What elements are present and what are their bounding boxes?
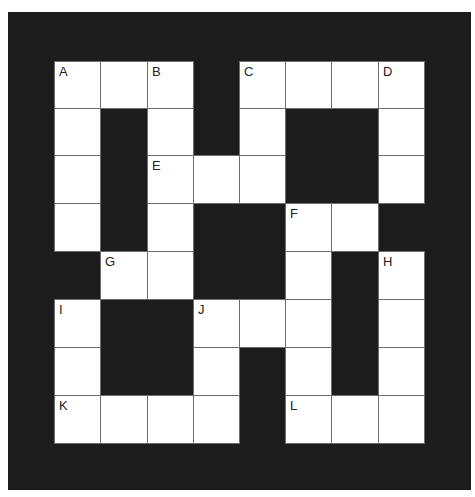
crossword-cell[interactable] <box>147 203 194 252</box>
crossword-cell[interactable] <box>193 347 240 396</box>
crossword-cell[interactable] <box>285 299 332 348</box>
crossword-board: ABCDEFGHIJKL <box>8 12 471 490</box>
clue-number-label: I <box>59 303 63 316</box>
crossword-cell[interactable] <box>193 155 240 204</box>
crossword-cell-j[interactable]: J <box>193 299 240 348</box>
crossword-cell-k[interactable]: K <box>54 395 101 444</box>
crossword-cell[interactable] <box>331 61 379 109</box>
clue-number-label: K <box>59 399 68 412</box>
crossword-cell-i[interactable]: I <box>54 299 101 348</box>
crossword-cell-e[interactable]: E <box>147 155 194 204</box>
crossword-cell-d[interactable]: D <box>378 61 425 109</box>
crossword-cell[interactable] <box>239 155 286 204</box>
crossword-cell[interactable] <box>378 347 425 396</box>
crossword-cell[interactable] <box>378 155 425 204</box>
clue-number-label: G <box>105 255 115 268</box>
clue-number-label: H <box>383 255 392 268</box>
crossword-cell[interactable] <box>378 108 425 156</box>
crossword-cell[interactable] <box>147 108 194 156</box>
clue-number-label: J <box>198 303 205 316</box>
crossword-cell[interactable] <box>239 299 286 348</box>
crossword-cell-h[interactable]: H <box>378 251 425 300</box>
crossword-cell-b[interactable]: B <box>147 61 194 109</box>
crossword-cell[interactable] <box>193 395 240 444</box>
clue-number-label: D <box>383 65 392 78</box>
crossword-cell[interactable] <box>54 203 101 252</box>
crossword-cell-c[interactable]: C <box>239 61 286 109</box>
crossword-cell[interactable] <box>54 347 101 396</box>
crossword-cell[interactable] <box>331 395 379 444</box>
clue-number-label: E <box>152 159 161 172</box>
clue-number-label: F <box>290 207 298 220</box>
crossword-cell[interactable] <box>147 251 194 300</box>
crossword-cell-g[interactable]: G <box>100 251 148 300</box>
crossword-cell[interactable] <box>100 61 148 109</box>
crossword-cell[interactable] <box>285 347 332 396</box>
crossword-cell[interactable] <box>378 395 425 444</box>
clue-number-label: A <box>59 65 68 78</box>
crossword-cell[interactable] <box>378 299 425 348</box>
crossword-cell[interactable] <box>100 395 148 444</box>
clue-number-label: L <box>290 399 297 412</box>
crossword-cell-f[interactable]: F <box>285 203 332 252</box>
crossword-cell-l[interactable]: L <box>285 395 332 444</box>
crossword-cell[interactable] <box>147 395 194 444</box>
clue-number-label: B <box>152 65 161 78</box>
crossword-cell[interactable] <box>54 108 101 156</box>
crossword-cell-a[interactable]: A <box>54 61 101 109</box>
crossword-cell[interactable] <box>285 251 332 300</box>
clue-number-label: C <box>244 65 253 78</box>
crossword-cell[interactable] <box>331 203 379 252</box>
crossword-cell[interactable] <box>239 108 286 156</box>
crossword-cell[interactable] <box>285 61 332 109</box>
crossword-cell[interactable] <box>54 155 101 204</box>
